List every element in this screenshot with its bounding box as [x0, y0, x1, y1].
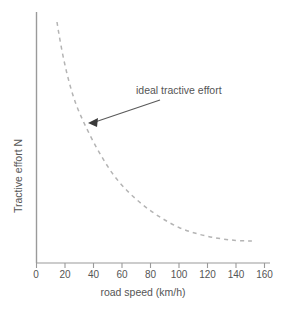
x-tick-label-40: 40 — [88, 270, 99, 280]
x-tick-label-80: 80 — [145, 270, 156, 280]
x-tick-label-20: 20 — [59, 270, 70, 280]
x-axis-ticks — [37, 263, 265, 268]
x-axis-title: road speed (km/h) — [0, 286, 286, 298]
x-tick-label-100: 100 — [171, 270, 188, 280]
series-ideal-tractive-effort — [57, 22, 252, 241]
chart-figure: 0 20 40 60 80 100 120 140 160 road speed… — [0, 0, 286, 309]
annotation-label-ideal-tractive-effort: ideal tractive effort — [136, 84, 222, 96]
annotation-arrowhead-icon — [88, 118, 98, 127]
x-tick-label-0: 0 — [33, 270, 39, 280]
annotation-leader-line — [95, 100, 160, 122]
x-tick-label-140: 140 — [228, 270, 245, 280]
chart-canvas — [0, 0, 286, 309]
x-tick-label-60: 60 — [116, 270, 127, 280]
x-tick-label-120: 120 — [199, 270, 216, 280]
y-axis-title-container: Tractive effort N — [11, 128, 25, 224]
y-axis-title: Tractive effort N — [12, 139, 24, 213]
x-tick-label-160: 160 — [256, 270, 273, 280]
